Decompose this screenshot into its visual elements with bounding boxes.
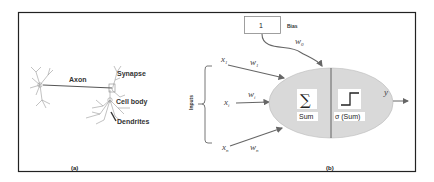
axon-line [43,85,112,88]
weight-wn: wn [250,142,259,153]
bias-weight: w0 [295,36,304,47]
bias-value: 1 [259,22,263,29]
bias-label: Bias [287,23,298,29]
input-x1: x1 [220,54,228,65]
bias-connection [262,34,322,66]
caption-b: (b) [326,165,334,171]
biological-neuron [30,66,130,124]
dendrites-label: Dendrites [117,118,149,125]
sum-symbol: ∑ [300,91,311,109]
sum-label: Sum [299,113,314,120]
cell-body-label: Cell body [116,98,148,106]
weight-w1: w1 [250,57,259,68]
input-xn: xn [221,142,229,153]
synapse-label: Synapse [117,70,146,78]
input-arrow-i [236,102,269,103]
weight-wi: wi [248,89,256,100]
neuron-diagram: Axon Synapse Cell body Dendrites (a) 1 B… [0,0,434,182]
inputs-brace [198,66,212,143]
caption-a: (a) [71,165,78,171]
input-xi: xi [223,97,230,108]
axon-label: Axon [69,76,87,83]
activation-label: σ (Sum) [335,113,360,121]
output-y: y [383,87,388,97]
inputs-label: Inputs [188,95,194,110]
